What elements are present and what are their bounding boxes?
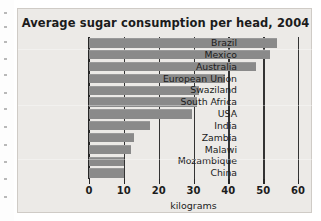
- tick-10: [124, 179, 125, 184]
- tick-0: [89, 179, 90, 184]
- bar-row: [89, 144, 298, 156]
- bar-row: [89, 167, 298, 179]
- category-label-european-union: European Union: [163, 74, 237, 84]
- category-label-malawi: Malawi: [205, 145, 237, 155]
- category-label-usa: USA: [218, 109, 237, 119]
- bar-row: [89, 120, 298, 132]
- bar-india: [89, 121, 150, 130]
- bar-china: [89, 168, 124, 177]
- category-label-australia: Australia: [196, 62, 237, 72]
- bar-zambia: [89, 133, 134, 142]
- bar-row: [89, 49, 298, 61]
- tick-60: [298, 179, 299, 184]
- x-axis-label: kilograms: [89, 200, 298, 211]
- x-tick-label-10: 10: [117, 185, 131, 196]
- bar-swaziland: [89, 86, 199, 95]
- category-label-mozambique: Mozambique: [178, 156, 237, 166]
- category-label-mexico: Mexico: [205, 50, 237, 60]
- bar-row: [89, 61, 298, 73]
- x-tick-label-60: 60: [291, 185, 305, 196]
- bar-row: [89, 108, 298, 120]
- category-label-china: China: [210, 168, 237, 178]
- category-label-south-africa: South Africa: [181, 97, 238, 107]
- category-label-swaziland: Swaziland: [190, 85, 237, 95]
- x-tick-label-50: 50: [256, 185, 270, 196]
- x-tick-label-0: 0: [86, 185, 93, 196]
- bar-usa: [89, 109, 192, 118]
- x-tick-label-30: 30: [187, 185, 201, 196]
- tick-40: [228, 179, 229, 184]
- category-label-zambia: Zambia: [202, 133, 237, 143]
- bar-row: [89, 132, 298, 144]
- tick-50: [263, 179, 264, 184]
- bar-brazil: [89, 38, 277, 47]
- chart-figure: Average sugar consumption per head, 2004…: [0, 0, 321, 221]
- bar-mexico: [89, 50, 270, 59]
- x-tick-label-40: 40: [221, 185, 235, 196]
- category-label-brazil: Brazil: [211, 38, 237, 48]
- tick-30: [194, 179, 195, 184]
- bar-row: [89, 37, 298, 49]
- chart-panel: Average sugar consumption per head, 2004…: [17, 8, 312, 213]
- x-tick-label-20: 20: [152, 185, 166, 196]
- chart-title: Average sugar consumption per head, 2004: [18, 16, 313, 30]
- scan-edge-artifact: [0, 0, 14, 221]
- bar-malawi: [89, 145, 131, 154]
- bar-mozambique: [89, 157, 124, 166]
- category-label-india: India: [214, 121, 237, 131]
- tick-20: [159, 179, 160, 184]
- gridline-60: [298, 37, 299, 179]
